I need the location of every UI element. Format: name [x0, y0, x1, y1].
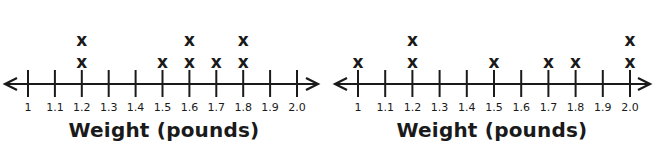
- line-plot-left: 11.11.2xx1.31.41.5x1.6xx1.7x1.8xx1.92.0 …: [0, 0, 328, 149]
- tick-label: 1.5: [485, 101, 503, 114]
- x-axis-title-right: Weight (pounds): [328, 118, 656, 142]
- data-marker-x-icon: x: [76, 30, 87, 50]
- data-marker-x-icon: x: [76, 52, 87, 72]
- tick-label: 1.2: [73, 101, 91, 114]
- line-plot-right: 1x1.11.2xx1.31.41.5x1.61.7x1.8x1.92.0xx …: [328, 0, 656, 149]
- tick-label: 1.6: [512, 101, 530, 114]
- data-marker-x-icon: x: [625, 30, 636, 50]
- tick-label: 1.7: [540, 101, 558, 114]
- data-marker-x-icon: x: [353, 52, 364, 72]
- tick-label: 1.2: [404, 101, 422, 114]
- data-marker-x-icon: x: [543, 52, 554, 72]
- tick-label: 1.9: [594, 101, 612, 114]
- tick-label: 1.8: [234, 101, 252, 114]
- tick-label: 1: [25, 101, 32, 114]
- data-marker-x-icon: x: [570, 52, 581, 72]
- tick-label: 1.4: [458, 101, 476, 114]
- data-marker-x-icon: x: [184, 30, 195, 50]
- tick-label: 1.1: [46, 101, 64, 114]
- tick-label: 1.4: [127, 101, 145, 114]
- data-marker-x-icon: x: [489, 52, 500, 72]
- data-marker-x-icon: x: [407, 30, 418, 50]
- data-marker-x-icon: x: [238, 30, 249, 50]
- tick-label: 1.7: [208, 101, 226, 114]
- tick-label: 1.6: [181, 101, 199, 114]
- tick-label: 2.0: [288, 101, 306, 114]
- tick-label: 2.0: [621, 101, 639, 114]
- tick-label: 1.9: [261, 101, 279, 114]
- tick-label: 1.8: [567, 101, 585, 114]
- tick-label: 1.3: [100, 101, 118, 114]
- data-marker-x-icon: x: [184, 52, 195, 72]
- tick-label: 1.5: [154, 101, 172, 114]
- data-marker-x-icon: x: [238, 52, 249, 72]
- data-marker-x-icon: x: [625, 52, 636, 72]
- tick-label: 1.3: [431, 101, 449, 114]
- x-axis-title-left: Weight (pounds): [0, 118, 328, 142]
- tick-label: 1.1: [376, 101, 394, 114]
- tick-label: 1: [355, 101, 362, 114]
- data-marker-x-icon: x: [157, 52, 168, 72]
- data-marker-x-icon: x: [211, 52, 222, 72]
- data-marker-x-icon: x: [407, 52, 418, 72]
